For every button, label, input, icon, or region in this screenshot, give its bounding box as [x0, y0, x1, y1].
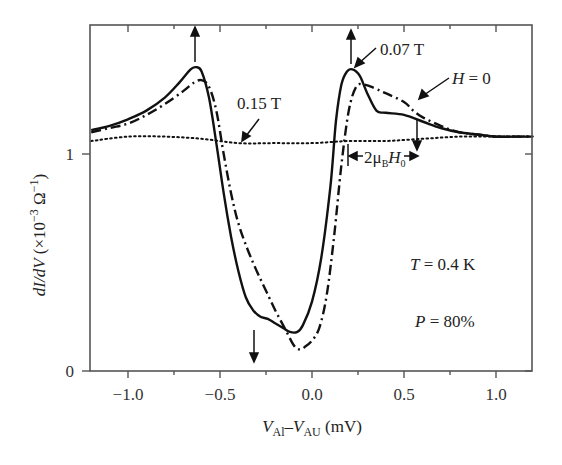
- chart: −1.0−0.50.00.51.0 01 VAl–VAU (mV) dI/dV …: [0, 0, 562, 465]
- x-tick-label: −1.0: [113, 385, 144, 404]
- label-0.15T: 0.15 T: [237, 94, 282, 113]
- arrow-0.15T: [246, 119, 259, 136]
- arrow-H0: [424, 78, 449, 95]
- arrowhead-right: [410, 152, 418, 160]
- arrowhead-down: [413, 141, 421, 150]
- x-tick-label: −0.5: [205, 385, 236, 404]
- y-axis-label: dI/dV (×10−3 Ω−1): [27, 174, 49, 296]
- arrowhead-left: [349, 152, 357, 160]
- y-tick-label: 0: [66, 362, 75, 381]
- series-0.07T: [91, 67, 533, 333]
- label-polarization: P = 80%: [414, 312, 475, 331]
- annotation-arrows: [191, 27, 449, 362]
- series-Heq0: [91, 80, 533, 349]
- x-axis-label: VAl–VAU (mV): [262, 417, 362, 439]
- arrowhead-up: [191, 27, 199, 36]
- label-0.07T: 0.07 T: [380, 40, 425, 59]
- label-H0: H = 0: [451, 69, 491, 88]
- y-tick-labels: 01: [66, 145, 75, 381]
- plot-curves: [91, 67, 533, 349]
- x-tick-label: 0.0: [301, 385, 322, 404]
- arrowhead: [419, 90, 428, 99]
- label-temperature: T = 0.4 K: [410, 255, 476, 274]
- x-tick-label: 0.5: [393, 385, 414, 404]
- series-0.15T: [91, 136, 533, 143]
- y-tick-label: 1: [66, 145, 75, 164]
- label-zeeman-splitting: 2μBH0: [364, 148, 406, 169]
- x-tick-labels: −1.0−0.50.00.51.0: [113, 385, 507, 404]
- arrowhead-up: [347, 30, 355, 39]
- x-tick-label: 1.0: [485, 385, 506, 404]
- arrowhead-down: [250, 353, 258, 362]
